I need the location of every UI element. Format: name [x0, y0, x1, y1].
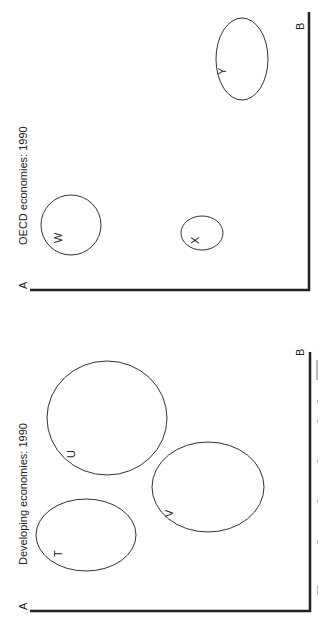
bubble-x	[181, 216, 223, 250]
bubble-u-label: U	[65, 450, 77, 458]
developing-axis-a-label: A	[17, 602, 29, 610]
oecd-axis-a-label: A	[17, 281, 29, 289]
bubble-w-label: W	[52, 232, 64, 243]
bubble-v	[152, 442, 264, 532]
bubble-x-label: X	[189, 236, 201, 244]
diagram-canvas: A B OECD economies: 1990 W X Y A B Devel…	[0, 0, 322, 625]
developing-axis-b-label: B	[294, 349, 306, 356]
bubble-v-label: V	[163, 509, 175, 517]
bubble-y	[216, 18, 268, 100]
developing-panel: A B Developing economies: 1990 T U V	[17, 349, 311, 612]
clipped-caption	[316, 360, 318, 595]
bubble-w	[41, 195, 101, 255]
oecd-title: OECD economies: 1990	[17, 126, 29, 245]
developing-title: Developing economies: 1990	[17, 423, 29, 565]
bubble-y-label: Y	[216, 67, 228, 75]
bubble-t	[36, 499, 136, 571]
bubble-t-label: T	[52, 550, 64, 557]
oecd-axis-b-label: B	[294, 23, 306, 30]
oecd-panel: A B OECD economies: 1990 W X Y	[17, 12, 310, 291]
